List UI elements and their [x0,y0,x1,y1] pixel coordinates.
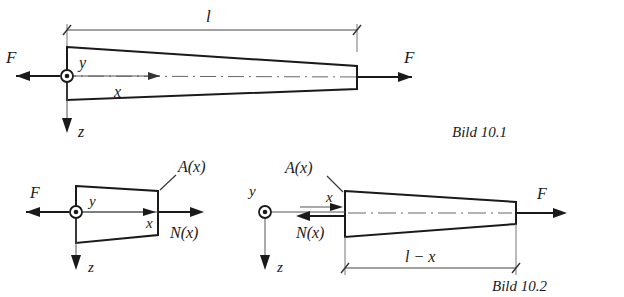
axis-arrow-x [67,72,160,80]
tapered-beam-outline [67,47,357,100]
caption-figure-10-1: Bild 10.1 [452,124,507,140]
figure-10-2-left: F A(x) y x N(x) z [26,158,206,275]
left-label-axis-y: y [87,193,96,209]
right-label-length: l − x [405,248,435,265]
label-force-left: F [5,48,17,67]
left-axis-arrow-z [71,212,81,270]
right-beam-outline [345,191,516,237]
label-force-right: F [403,48,415,67]
right-label-area: A(x) [284,159,313,177]
left-force-arrow [26,207,69,217]
left-area-leader-line [160,175,176,190]
axis-arrow-z [62,76,72,133]
figure-page: l F F y x z Bild 10.1 [0,0,624,297]
left-label-area: A(x) [177,158,206,176]
left-label-force: F [29,184,40,201]
left-label-axis-x: x [145,215,153,231]
engineering-diagram-canvas: l F F y x z Bild 10.1 [0,0,624,297]
right-label-force: F [536,185,547,202]
left-label-normal-force: N(x) [169,224,198,242]
left-label-axis-z: z [87,259,94,275]
force-arrow-right [357,72,412,82]
left-origin-marker-y [70,206,82,218]
right-force-arrow [516,208,567,218]
label-axis-y: y [77,54,87,72]
left-normal-force-arrow [158,207,204,217]
label-length: l [206,7,211,26]
right-label-axis-y: y [247,183,256,199]
right-axis-arrow-x [300,203,343,211]
caption-figure-10-2: Bild 10.2 [492,278,547,294]
figure-10-2-right: A(x) y x N(x) z F l − x Bild 10.2 [247,159,567,294]
right-label-axis-z: z [276,259,283,275]
right-label-normal-force: N(x) [295,224,324,242]
origin-marker-y [61,70,73,82]
right-label-axis-x: x [325,189,333,205]
label-axis-x: x [113,83,121,100]
figure-10-1: l F F y x z Bild 10.1 [5,7,507,140]
right-axis-arrow-z [260,212,270,270]
label-axis-z: z [77,123,85,140]
right-origin-marker-y [259,206,271,218]
left-axis-arrow-x [76,208,156,216]
force-arrow-left [16,71,60,81]
